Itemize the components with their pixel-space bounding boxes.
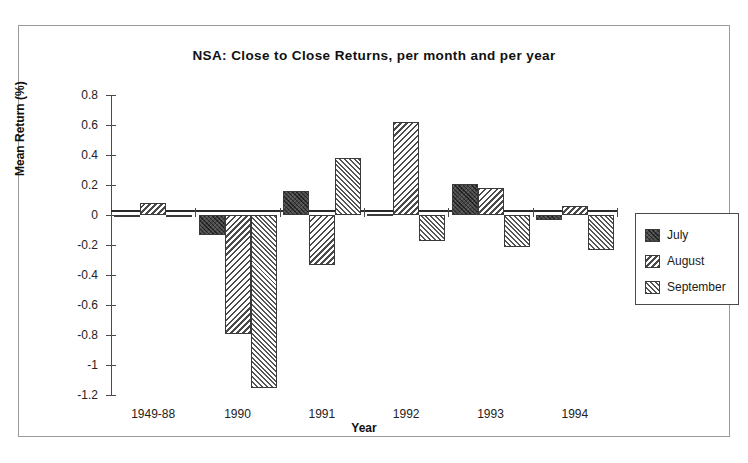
plot-area: 0.80.60.40.20-0.2-0.4-0.6-0.8-1-1.2 1949…: [111, 95, 617, 395]
y-axis-tick-label: -1.2: [77, 388, 98, 402]
y-axis-tick: -1: [106, 365, 116, 366]
bar-september-1991: [335, 158, 361, 215]
y-axis-tick-label: -0.4: [77, 268, 98, 282]
y-axis-tick: 0.2: [106, 185, 116, 186]
y-axis-tick: 0.4: [106, 155, 116, 156]
y-axis-tick-label: -1: [87, 358, 98, 372]
x-axis-tick: [533, 208, 534, 217]
y-axis-tick: -0.4: [106, 275, 116, 276]
x-axis-title: Year: [111, 421, 617, 435]
bar-august-1994: [562, 206, 588, 215]
x-axis-category-label: 1991: [308, 407, 335, 421]
bar-september-1992: [419, 215, 445, 241]
y-axis-tick-label: 0.2: [81, 178, 98, 192]
bar-september-1993: [504, 215, 530, 247]
y-axis-tick-label: 0.4: [81, 148, 98, 162]
y-axis-tick-label: 0: [91, 208, 98, 222]
y-axis-tick: -1.2: [106, 395, 116, 396]
legend-label: September: [667, 280, 726, 294]
y-axis-tick-label: 0.6: [81, 118, 98, 132]
y-axis-tick: -0.2: [106, 245, 116, 246]
bar-september-1994: [588, 215, 614, 250]
x-axis-category-label: 1992: [393, 407, 420, 421]
bar-august-1992: [393, 122, 419, 215]
bar-july-1992: [367, 214, 393, 216]
y-axis-tick: 0.8: [106, 95, 116, 96]
bar-july-1993: [452, 184, 478, 216]
x-axis-tick-end: [617, 208, 618, 217]
x-axis-category-label: 1949-88: [131, 407, 175, 421]
bar-september-1990: [251, 215, 277, 388]
bar-september-1949-88: [166, 215, 192, 217]
legend: JulyAugustSeptember: [635, 213, 739, 305]
y-axis-tick-label: -0.6: [77, 298, 98, 312]
bar-july-1994: [536, 215, 562, 220]
x-axis-category-label: 1990: [224, 407, 251, 421]
x-axis-tick: [195, 208, 196, 217]
legend-item-july[interactable]: July: [645, 223, 738, 247]
bar-august-1949-88: [140, 203, 166, 215]
legend-swatch-august: [645, 255, 660, 268]
bar-august-1993: [478, 188, 504, 215]
legend-swatch-july: [645, 229, 660, 242]
x-axis-tick: [280, 208, 281, 217]
bar-august-1991: [309, 215, 335, 265]
bar-july-1990: [199, 215, 225, 235]
bar-july-1991: [283, 191, 309, 215]
legend-item-august[interactable]: August: [645, 249, 738, 273]
legend-label: August: [667, 254, 704, 268]
x-axis-tick: [364, 208, 365, 217]
bar-august-1990: [225, 215, 251, 334]
y-axis-tick: -0.8: [106, 335, 116, 336]
y-axis-tick-label: -0.8: [77, 328, 98, 342]
bar-july-1949-88: [114, 215, 140, 217]
x-axis-tick: [448, 208, 449, 217]
chart-title: NSA: Close to Close Returns, per month a…: [19, 48, 729, 63]
x-axis-category-label: 1994: [561, 407, 588, 421]
y-axis-title: Mean Return (%): [13, 81, 27, 176]
x-axis-category-label: 1993: [477, 407, 504, 421]
legend-label: July: [667, 228, 688, 242]
y-axis-tick: -0.6: [106, 305, 116, 306]
y-axis-tick-label: 0.8: [81, 88, 98, 102]
figure-frame: NSA: Close to Close Returns, per month a…: [18, 25, 730, 437]
legend-swatch-september: [645, 281, 660, 294]
y-axis-tick-label: -0.2: [77, 238, 98, 252]
legend-item-september[interactable]: September: [645, 275, 738, 299]
y-axis-tick: 0.6: [106, 125, 116, 126]
